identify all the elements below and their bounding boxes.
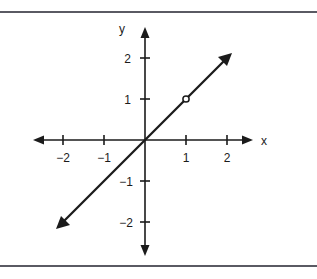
- figure-canvas: y x 2 1 −1 −2 −2 −1 1 2: [0, 0, 317, 279]
- y-tick-label-neg1: −1: [119, 175, 133, 189]
- function-line-y-equals-x: [62, 59, 226, 223]
- x-axis-label: x: [261, 134, 267, 148]
- x-axis-left-arrowhead: [33, 136, 44, 145]
- y-tick-label-2: 2: [124, 52, 131, 66]
- y-tick-label-1: 1: [124, 93, 131, 107]
- x-tick-label-neg1: −1: [97, 151, 111, 165]
- y-tick-label-neg2: −2: [119, 216, 133, 230]
- x-axis-right-arrowhead: [242, 136, 253, 145]
- x-tick-label-neg2: −2: [56, 151, 70, 165]
- y-axis-down-arrowhead: [141, 245, 150, 256]
- y-axis-up-arrowhead: [141, 27, 150, 38]
- open-circle-point-1-1: [183, 96, 189, 102]
- x-tick-label-1: 1: [183, 151, 190, 165]
- y-axis-label: y: [119, 22, 125, 36]
- coordinate-plane-graph: y x 2 1 −1 −2 −2 −1 1 2: [0, 0, 317, 279]
- x-tick-label-2: 2: [224, 151, 231, 165]
